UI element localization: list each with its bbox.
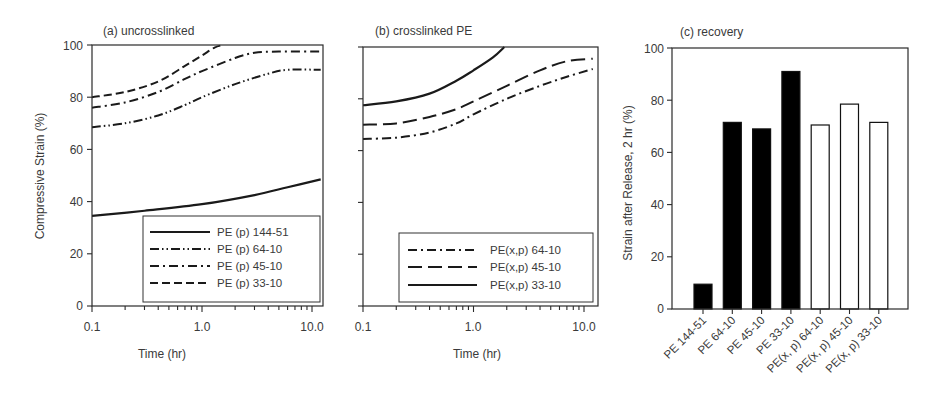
y-tick-label: 60 (70, 143, 84, 157)
panel-a-x-axis-title: Time (hr) (138, 347, 186, 361)
panel-b-x-ticks: 0.1 1.0 10.0 (355, 320, 596, 334)
panel-a: (a) uncrosslinked 0 20 40 60 80 100 0.1 … (33, 24, 324, 361)
panel-b-title: (b) crosslinked PE (375, 24, 472, 38)
panel-a-y-axis-title: Compressive Strain (%) (33, 113, 47, 240)
panel-c-category-labels: PE 144-51PE 64-10PE 45-10PE 33-10PE(x, p… (661, 314, 884, 375)
bar (753, 129, 771, 309)
bar (811, 125, 829, 309)
panel-a-legend: PE (p) 144-51 PE (p) 64-10 PE (p) 45-10 … (143, 216, 320, 302)
legend-label: PE (p) 64-10 (217, 243, 282, 255)
x-tick-label: 0.1 (355, 320, 372, 334)
panel-c-plot-area (667, 48, 908, 314)
y-tick-label: 40 (651, 198, 665, 212)
legend-label: PE (p) 144-51 (217, 226, 289, 238)
y-tick-label: 20 (70, 247, 84, 261)
bar (841, 104, 859, 309)
series-line (92, 179, 321, 216)
panel-a-x-ticks: 0.1 1.0 10.0 (84, 320, 324, 334)
panel-a-y-ticks: 0 20 40 60 80 100 (63, 39, 83, 313)
x-tick-label: 10.0 (572, 320, 596, 334)
bar (723, 122, 741, 309)
legend-label: PE (p) 45-10 (217, 260, 282, 272)
y-tick-label: 20 (651, 250, 665, 264)
x-tick-label: 0.1 (84, 320, 101, 334)
series-line (92, 51, 321, 107)
panel-c-y-axis-title: Strain after Release, 2 hr (%) (621, 105, 635, 260)
bar (870, 122, 888, 309)
panel-c-y-ticks: 0 20 40 60 80 100 (644, 42, 664, 316)
panel-b-legend: PE(x,p) 64-10 PE(x,p) 45-10 PE(x,p) 33-1… (399, 233, 593, 302)
panel-c-title: (c) recovery (680, 25, 743, 39)
figure: (a) uncrosslinked 0 20 40 60 80 100 0.1 … (0, 0, 941, 410)
x-tick-label: 1.0 (465, 320, 482, 334)
x-tick-label: 1.0 (194, 320, 211, 334)
panel-b: (b) crosslinked PE 0.1 1.0 10.0 Time (hr… (355, 24, 598, 361)
bar (694, 284, 712, 309)
legend-label: PE(x,p) 45-10 (490, 261, 561, 273)
panel-b-x-axis-title: Time (hr) (453, 347, 501, 361)
y-tick-label: 80 (70, 91, 84, 105)
y-tick-label: 80 (651, 94, 665, 108)
series-line (363, 69, 593, 139)
y-tick-label: 60 (651, 146, 665, 160)
series-line (92, 70, 321, 128)
legend-label: PE(x,p) 33-10 (490, 279, 561, 291)
y-tick-label: 0 (657, 302, 664, 316)
legend-label: PE(x,p) 64-10 (490, 244, 561, 256)
x-tick-label: 10.0 (300, 320, 324, 334)
y-tick-label: 100 (644, 42, 664, 56)
y-tick-label: 0 (76, 299, 83, 313)
bar (782, 71, 800, 309)
panel-c: (c) recovery 0 20 40 60 80 100 Strain af… (621, 25, 908, 375)
legend-label: PE (p) 33-10 (217, 277, 282, 289)
panel-a-title: (a) uncrosslinked (103, 24, 194, 38)
y-tick-label: 100 (63, 39, 83, 53)
y-tick-label: 40 (70, 195, 84, 209)
